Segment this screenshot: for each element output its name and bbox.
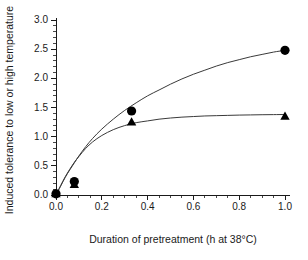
data-point-circle	[127, 106, 136, 115]
y-axis-title: Induced tolerance to low or high tempera…	[3, 6, 15, 215]
y-tick-label: 3.0	[34, 14, 48, 25]
x-tick-label: 1.0	[278, 201, 292, 212]
chart-figure: 0.00.20.40.60.81.0 0.00.51.01.52.02.53.0…	[0, 0, 308, 260]
data-point-triangle	[127, 117, 136, 125]
y-tick-label: 1.5	[34, 102, 48, 113]
x-tick-label: 0.2	[95, 201, 109, 212]
data-markers-circles	[51, 46, 289, 199]
x-tick-label: 0.6	[186, 201, 200, 212]
x-axis-tick-labels: 0.00.20.40.60.81.0	[49, 201, 292, 212]
y-tick-label: 1.0	[34, 131, 48, 142]
fit-curve-circles	[56, 50, 285, 195]
x-tick-label: 0.8	[232, 201, 246, 212]
x-axis-title: Duration of pretreatment (h at 38°C)	[89, 233, 257, 245]
x-tick-label: 0.4	[141, 201, 155, 212]
y-axis-tick-labels: 0.00.51.01.52.02.53.0	[34, 14, 48, 200]
scatter-plot: 0.00.20.40.60.81.0 0.00.51.01.52.02.53.0…	[0, 0, 308, 260]
x-tick-label: 0.0	[49, 201, 63, 212]
data-point-circle	[280, 46, 289, 55]
fit-curve-triangles	[56, 115, 285, 196]
data-markers-triangles	[51, 111, 289, 197]
y-tick-label: 2.0	[34, 72, 48, 83]
data-point-triangle	[280, 111, 289, 119]
y-tick-label: 0.5	[34, 160, 48, 171]
y-tick-label: 2.5	[34, 43, 48, 54]
y-tick-label: 0.0	[34, 189, 48, 200]
y-axis-major-ticks	[51, 20, 56, 195]
